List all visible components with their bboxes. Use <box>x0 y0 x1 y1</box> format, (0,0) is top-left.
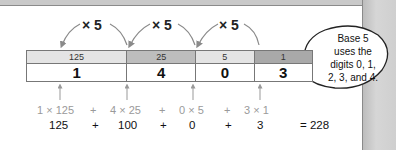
callout-line: uses the <box>318 45 388 58</box>
digit-cell: 3 <box>254 64 312 82</box>
place-value-cell: 1 <box>254 51 312 64</box>
place-value-row: 125 25 5 1 <box>27 51 313 64</box>
callout-line: 2, 3, and 4. <box>318 71 388 84</box>
callout-line: digits 0, 1, <box>318 58 388 71</box>
expansion-plus: + <box>159 104 165 116</box>
product-value: 100 <box>118 119 137 131</box>
place-value-cell: 125 <box>27 51 127 64</box>
product-value: 0 <box>189 119 195 131</box>
digit-cell: 0 <box>196 64 254 82</box>
expansion-term: 1 × 125 <box>37 104 74 116</box>
place-value-cell: 5 <box>196 51 254 64</box>
expansion-term: 3 × 1 <box>244 104 269 116</box>
place-value-table: 125 25 5 1 1 4 0 3 <box>26 50 313 82</box>
digit-row: 1 4 0 3 <box>27 64 313 82</box>
result-value: = 228 <box>300 119 329 131</box>
multiplier-label: × 5 <box>219 17 239 33</box>
expansion-plus: + <box>224 104 230 116</box>
place-value-cell: 25 <box>127 51 196 64</box>
digit-cell: 1 <box>27 64 127 82</box>
expansion-term: 0 × 5 <box>179 104 204 116</box>
expansion-plus: + <box>90 104 96 116</box>
product-plus: + <box>160 119 167 131</box>
product-value: 125 <box>49 119 68 131</box>
product-plus: + <box>225 119 232 131</box>
multiplier-label: × 5 <box>82 17 102 33</box>
product-plus: + <box>92 119 99 131</box>
expansion-term: 4 × 25 <box>110 104 141 116</box>
callout-line: Base 5 <box>318 32 388 45</box>
digit-cell: 4 <box>127 64 196 82</box>
product-value: 3 <box>257 119 263 131</box>
multiplier-label: × 5 <box>152 17 172 33</box>
callout-text: Base 5 uses the digits 0, 1, 2, 3, and 4… <box>318 32 388 84</box>
